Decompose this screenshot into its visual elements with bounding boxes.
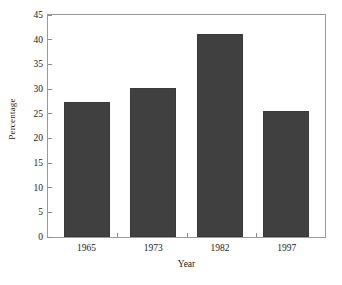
- bar-slot: [187, 15, 253, 237]
- y-axis-tick-label: 20: [34, 131, 44, 145]
- bar-slot: [54, 15, 120, 237]
- bar-chart-figure: Percentage 051015202530354045 1965197319…: [0, 0, 342, 285]
- y-axis-tick-label: 15: [34, 156, 44, 170]
- y-axis-tick-label: 30: [34, 82, 44, 96]
- x-axis-title: Year: [47, 259, 326, 269]
- y-axis-tick-label: 40: [34, 33, 44, 47]
- x-axis-tick-label: 1965: [53, 240, 120, 256]
- y-axis-tick-label: 10: [34, 181, 44, 195]
- plot-area: 051015202530354045: [47, 14, 326, 238]
- y-axis-title-text: Percentage: [7, 98, 17, 139]
- y-axis-tick-label: 35: [34, 57, 44, 71]
- bar-slot: [120, 15, 186, 237]
- bar-slot: [253, 15, 319, 237]
- x-axis-tick-label: 1973: [120, 240, 187, 256]
- y-axis-tick-label: 0: [38, 230, 43, 244]
- bar-series: [48, 15, 325, 237]
- bar-1973[interactable]: [130, 88, 176, 237]
- bar-1965[interactable]: [64, 102, 110, 237]
- x-axis-tick-label: 1997: [253, 240, 320, 256]
- y-axis-tick-label: 5: [38, 205, 43, 219]
- y-axis-title: Percentage: [2, 0, 22, 238]
- y-axis-tick-label: 25: [34, 107, 44, 121]
- x-axis-tick-labels: 1965197319821997: [47, 240, 326, 256]
- bar-1982[interactable]: [197, 34, 243, 237]
- y-axis-tick-label: 45: [34, 8, 44, 22]
- x-axis-tick-label: 1982: [187, 240, 254, 256]
- bar-1997[interactable]: [263, 111, 309, 237]
